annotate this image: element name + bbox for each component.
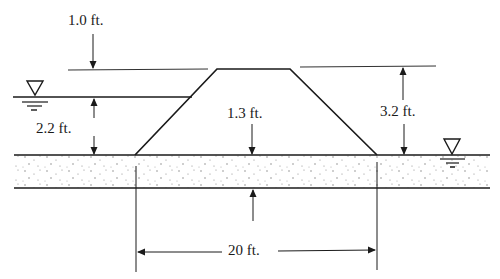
crest-reference-line-right xyxy=(300,66,436,67)
levee-center-height-label: 1.3 ft. xyxy=(227,106,262,121)
ground-layer xyxy=(14,155,490,188)
left-water-level-icon xyxy=(22,81,48,110)
freeboard-label: 1.0 ft. xyxy=(68,13,103,28)
base-width-label: 20 ft. xyxy=(225,243,263,258)
levee-height-right-label: 3.2 ft. xyxy=(380,104,415,119)
levee-cross-section-diagram xyxy=(0,0,500,279)
water-depth-left-label: 2.2 ft. xyxy=(36,121,71,136)
crest-reference-line-left xyxy=(68,69,208,70)
base-width-arrow-right xyxy=(278,250,375,251)
